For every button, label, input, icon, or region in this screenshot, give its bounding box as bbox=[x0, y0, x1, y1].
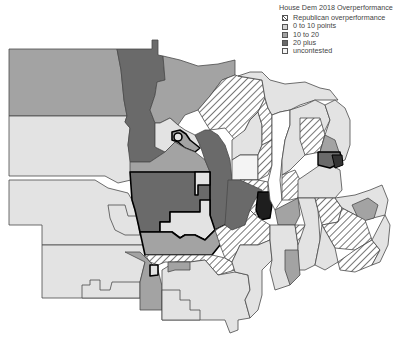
hatch-swatch-icon bbox=[282, 15, 288, 21]
region-south-dakota bbox=[9, 116, 133, 183]
legend-item-uncontested: uncontested bbox=[279, 47, 393, 55]
legend-title: House Dem 2018 Overperformance bbox=[279, 4, 393, 12]
map-legend: House Dem 2018 Overperformance Republica… bbox=[279, 4, 393, 55]
region-minneapolis bbox=[174, 133, 182, 141]
region-michigan-south bbox=[298, 165, 342, 198]
dark-swatch-icon bbox=[282, 40, 288, 46]
region-kansas-city bbox=[150, 265, 158, 276]
white-swatch-icon bbox=[282, 48, 288, 54]
region-michigan-sw bbox=[282, 170, 300, 200]
legend-label: uncontested bbox=[293, 47, 332, 55]
region-wisconsin-uncontested bbox=[232, 155, 258, 180]
region-north-dakota bbox=[9, 49, 127, 116]
light-swatch-icon bbox=[282, 24, 288, 30]
medium-swatch-icon bbox=[282, 32, 288, 38]
